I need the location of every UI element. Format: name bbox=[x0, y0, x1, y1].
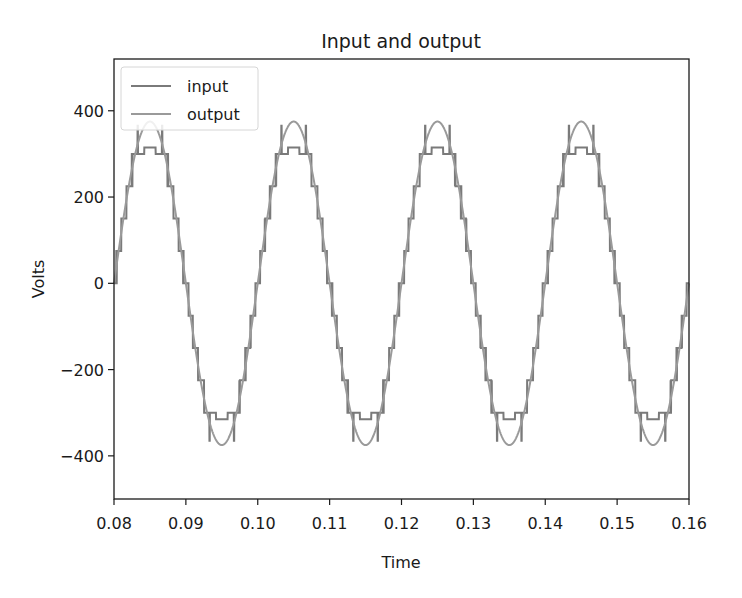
y-axis-label: Volts bbox=[29, 260, 48, 299]
x-tick-label: 0.12 bbox=[384, 514, 420, 533]
y-tick-label: 200 bbox=[73, 188, 104, 207]
y-axis: 4002000−200−400 bbox=[60, 102, 114, 466]
y-tick-label: −400 bbox=[60, 447, 104, 466]
x-tick-label: 0.13 bbox=[456, 514, 492, 533]
y-tick-label: 400 bbox=[73, 102, 104, 121]
x-axis-label: Time bbox=[380, 553, 420, 572]
chart-title: Input and output bbox=[321, 30, 481, 52]
x-tick-label: 0.16 bbox=[671, 514, 707, 533]
legend: input output bbox=[121, 67, 258, 130]
x-tick-label: 0.15 bbox=[599, 514, 635, 533]
y-tick-label: 0 bbox=[94, 274, 104, 293]
chart: Input and output 0.080.090.100.110.120.1… bbox=[0, 0, 742, 598]
legend-label-input: input bbox=[187, 77, 228, 96]
series-output-line bbox=[114, 122, 689, 446]
x-tick-label: 0.10 bbox=[240, 514, 276, 533]
legend-label-output: output bbox=[187, 105, 240, 124]
x-axis: 0.080.090.100.110.120.130.140.150.16 bbox=[96, 499, 707, 533]
x-tick-label: 0.09 bbox=[168, 514, 204, 533]
y-tick-label: −200 bbox=[60, 361, 104, 380]
x-tick-label: 0.11 bbox=[312, 514, 348, 533]
x-tick-label: 0.08 bbox=[96, 514, 132, 533]
plot-area bbox=[114, 122, 689, 446]
x-tick-label: 0.14 bbox=[527, 514, 563, 533]
